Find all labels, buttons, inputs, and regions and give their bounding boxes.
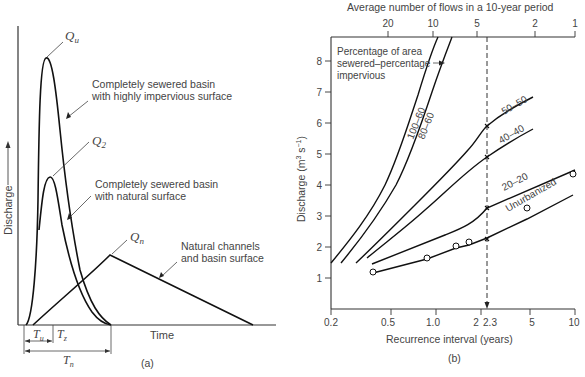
tn-label: Tn — [63, 353, 74, 369]
arrowhead-icon — [25, 339, 30, 343]
arrowhead-icon — [159, 272, 164, 278]
qn-leader — [112, 240, 127, 254]
top-axis-tick-labels: 20 10 5 2 1 — [382, 18, 578, 29]
panel-a-caption: (a) — [141, 357, 154, 369]
svg-text:5: 5 — [529, 317, 535, 328]
svg-text:0.2: 0.2 — [324, 317, 338, 328]
reference-arrowhead-icon — [485, 302, 490, 309]
label-50-50: 50–50 — [500, 93, 530, 117]
curve-natural-channels — [33, 255, 253, 325]
panel-a-ylabel: Discharge — [2, 185, 14, 235]
qu-label: Qu — [65, 28, 79, 45]
arrowhead-icon — [25, 349, 30, 353]
label-40-40: 40–40 — [497, 122, 527, 146]
qu-leader — [47, 42, 63, 57]
panel-b-ylabel: Discharge (m3 s−1) — [295, 136, 307, 222]
q2-leader — [53, 142, 89, 176]
leader-highly-impervious — [68, 101, 88, 117]
panel-b-top-title: Average number of flows in a 10-year per… — [347, 1, 554, 13]
leader-natural-surface — [70, 196, 91, 217]
svg-text:0.5: 0.5 — [381, 317, 395, 328]
label-highly-impervious-2: with highly impervious surface — [91, 90, 232, 102]
top-axis-ticks — [388, 31, 575, 37]
arrowhead-icon — [105, 349, 110, 353]
panel-a-hydrograph: Discharge Qu Q2 Qn Completely sewered ba… — [2, 26, 276, 369]
panel-a-ylabel-arrow-icon — [6, 141, 11, 148]
label-natural-channels-1: Natural channels — [181, 240, 260, 252]
q2-label: Q2 — [92, 133, 106, 150]
data-point-circle-icon — [370, 269, 376, 275]
legend-line-1: Percentage of area — [337, 46, 422, 57]
y-axis-ticks — [325, 61, 331, 278]
panel-b-caption: (b) — [448, 352, 461, 364]
svg-text:1.0: 1.0 — [426, 317, 440, 328]
svg-text:4: 4 — [316, 180, 322, 191]
svg-text:20: 20 — [382, 18, 394, 29]
svg-text:1: 1 — [316, 273, 322, 284]
svg-text:2: 2 — [532, 18, 538, 29]
legend-line-3: impervious — [337, 70, 385, 81]
svg-text:7: 7 — [316, 87, 322, 98]
data-point-circle-icon — [524, 205, 530, 211]
leader-natural-channels — [162, 262, 177, 276]
tu-label: Tu — [33, 327, 44, 343]
label-highly-impervious-1: Completely sewered basin — [92, 78, 215, 90]
data-point-circle-icon — [570, 171, 576, 177]
svg-text:10: 10 — [427, 18, 439, 29]
label-natural-surface-2: with natural surface — [94, 190, 186, 202]
svg-text:2: 2 — [316, 242, 322, 253]
data-point-circle-icon — [453, 243, 459, 249]
qn-label: Qn — [130, 229, 144, 246]
tz-label: Tz — [57, 327, 68, 343]
svg-text:3: 3 — [316, 211, 322, 222]
panel-a-xlabel: Time — [150, 329, 174, 341]
label-natural-channels-2: and basin surface — [181, 252, 264, 264]
figure: Discharge Qu Q2 Qn Completely sewered ba… — [0, 0, 585, 377]
data-point-circle-icon — [466, 239, 472, 245]
svg-text:2.3: 2.3 — [483, 317, 497, 328]
panel-b-xlabel: Recurrence interval (years) — [386, 333, 513, 345]
data-point-circle-icon — [424, 255, 430, 261]
y-axis-tick-labels: 1 2 3 4 5 6 7 8 — [316, 56, 322, 284]
svg-text:2: 2 — [473, 317, 479, 328]
panel-b-frequency-chart: Average number of flows in a 10-year per… — [295, 1, 580, 364]
svg-text:5: 5 — [316, 149, 322, 160]
label-20-20: 20–20 — [500, 170, 530, 193]
curve-unurbanized — [373, 195, 573, 273]
legend-line-2: sewered–percentage — [337, 58, 431, 69]
x-axis-ticks — [331, 309, 575, 315]
arrowhead-icon — [47, 339, 52, 343]
label-natural-surface-1: Completely sewered basin — [95, 178, 218, 190]
svg-text:8: 8 — [316, 56, 322, 67]
curve-40-40 — [367, 129, 533, 258]
svg-text:6: 6 — [316, 118, 322, 129]
svg-text:5: 5 — [474, 18, 480, 29]
svg-text:10: 10 — [568, 317, 580, 328]
svg-text:1: 1 — [572, 18, 578, 29]
x-axis-tick-labels: 0.2 0.5 1.0 2 2.3 5 10 — [324, 317, 580, 328]
